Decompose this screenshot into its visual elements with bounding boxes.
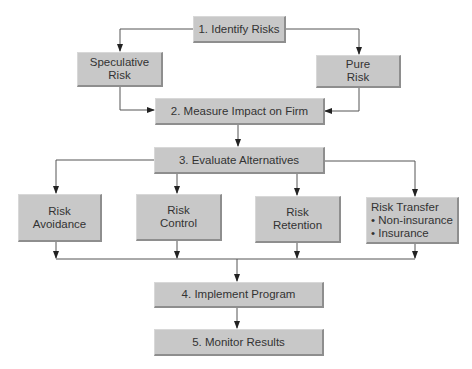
edge-identify-pure [285, 29, 359, 54]
edge-speculative-measure [120, 87, 154, 110]
node-label-bullet: • Insurance [371, 227, 429, 240]
node-label-line: Speculative [90, 56, 149, 69]
node-label-line: Retention [273, 219, 322, 232]
node-label-line: Pure [346, 58, 370, 71]
node-label-line: Avoidance [33, 218, 87, 231]
node-pure-risk: Pure Risk [316, 55, 401, 88]
node-risk-transfer: Risk Transfer • Non-insurance • Insuranc… [366, 197, 459, 244]
node-monitor-results: 5. Monitor Results [154, 329, 324, 356]
node-label: 1. Identify Risks [198, 23, 279, 36]
node-risk-control: Risk Control [136, 194, 222, 241]
node-risk-retention: Risk Retention [255, 196, 341, 243]
node-speculative-risk: Speculative Risk [77, 52, 163, 87]
node-label: 3. Evaluate Alternatives [179, 154, 299, 167]
node-label-line: Risk [108, 69, 130, 82]
node-evaluate-alternatives: 3. Evaluate Alternatives [154, 147, 325, 174]
node-label-line: Risk Transfer [371, 201, 439, 214]
node-label-line: Risk [48, 205, 70, 218]
node-label: 4. Implement Program [182, 288, 296, 301]
connector-lines [0, 0, 472, 369]
node-label-line: Risk [286, 206, 308, 219]
edge-identify-speculative [120, 29, 193, 51]
node-label: 5. Monitor Results [192, 336, 285, 349]
node-label-line: Risk [167, 204, 189, 217]
node-label-bullet: • Non-insurance [371, 214, 453, 227]
node-label: 2. Measure Impact on Firm [171, 105, 308, 118]
edge-evaluate-transfer [324, 161, 415, 196]
node-implement-program: 4. Implement Program [154, 282, 324, 308]
edge-pure-measure [325, 88, 359, 111]
node-label-line: Risk [347, 71, 369, 84]
node-label-line: Control [160, 217, 197, 230]
node-identify-risks: 1. Identify Risks [193, 16, 286, 43]
edge-evaluate-avoidance [56, 160, 154, 193]
node-risk-avoidance: Risk Avoidance [18, 194, 102, 242]
node-measure-impact: 2. Measure Impact on Firm [155, 98, 325, 125]
